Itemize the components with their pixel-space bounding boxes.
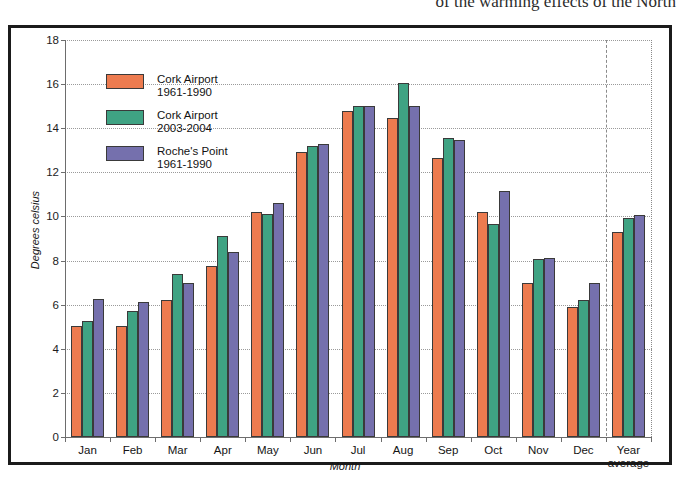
bar bbox=[364, 106, 375, 437]
legend-item-label: Cork Airport2003-2004 bbox=[157, 109, 218, 134]
y-axis-tick-label: 6 bbox=[15, 299, 59, 311]
bar bbox=[217, 236, 228, 437]
page-body-text-fragment-label: of the warming effects of the North bbox=[436, 0, 676, 11]
bar bbox=[443, 138, 454, 437]
legend-item-label-line1: Roche's Point bbox=[157, 145, 228, 158]
x-axis-title: Month bbox=[65, 460, 625, 472]
bar bbox=[578, 300, 589, 437]
x-axis-tick-mark bbox=[245, 437, 246, 442]
bar bbox=[544, 258, 555, 437]
bar bbox=[161, 300, 172, 437]
x-axis-tick-mark bbox=[335, 437, 336, 442]
bar-group bbox=[522, 40, 555, 437]
bar-group bbox=[477, 40, 510, 437]
bar bbox=[353, 106, 364, 437]
legend-item-label-line2: 1961-1990 bbox=[157, 86, 218, 99]
legend-color-swatch bbox=[106, 110, 144, 125]
y-axis-tick-label: 2 bbox=[15, 387, 59, 399]
bar bbox=[387, 118, 398, 437]
y-axis-tick-label: 18 bbox=[15, 34, 59, 46]
bar bbox=[183, 283, 194, 437]
bar bbox=[172, 274, 183, 437]
legend-item-label: Cork Airport1961-1990 bbox=[157, 73, 218, 98]
bar bbox=[533, 259, 544, 437]
bar bbox=[262, 214, 273, 437]
bar bbox=[488, 224, 499, 437]
y-axis-tick-label: 4 bbox=[15, 343, 59, 355]
bar bbox=[71, 326, 82, 437]
bar-group bbox=[612, 40, 645, 437]
bar bbox=[206, 266, 217, 437]
bar-chart: 024681012141618 Degrees celsius JanFebMa… bbox=[11, 28, 669, 462]
x-axis-tick-mark bbox=[290, 437, 291, 442]
y-axis-tick-label: 14 bbox=[15, 122, 59, 134]
legend-item: Roche's Point1961-1990 bbox=[106, 145, 296, 170]
x-axis-tick-mark bbox=[110, 437, 111, 442]
bar bbox=[138, 302, 149, 437]
bar-group bbox=[567, 40, 600, 437]
bar bbox=[454, 140, 465, 437]
bar-group bbox=[432, 40, 465, 437]
x-axis-tick-mark bbox=[381, 437, 382, 442]
bar bbox=[127, 311, 138, 437]
bar bbox=[398, 83, 409, 437]
legend-color-swatch bbox=[106, 146, 144, 161]
bar bbox=[251, 212, 262, 437]
x-axis-tick-mark bbox=[516, 437, 517, 442]
bar bbox=[318, 144, 329, 437]
y-axis-tick-label: 0 bbox=[15, 431, 59, 443]
legend-item-label-line2: 1961-1990 bbox=[157, 158, 228, 171]
x-axis-tick-mark bbox=[200, 437, 201, 442]
bar bbox=[273, 203, 284, 437]
bar bbox=[307, 146, 318, 437]
bar bbox=[296, 152, 307, 437]
bar bbox=[409, 106, 420, 437]
bar bbox=[634, 215, 645, 437]
bar bbox=[342, 111, 353, 437]
bar-group bbox=[387, 40, 420, 437]
page-body-text-fragment: of the warming effects of the North bbox=[0, 0, 684, 14]
legend-color-swatch bbox=[106, 74, 144, 89]
bar-group bbox=[296, 40, 329, 437]
bar bbox=[82, 321, 93, 437]
bar bbox=[93, 299, 104, 437]
legend-item: Cork Airport2003-2004 bbox=[106, 109, 296, 134]
bar-group bbox=[71, 40, 104, 437]
bar bbox=[522, 283, 533, 437]
y-axis-title: Degrees celsius bbox=[29, 170, 41, 290]
y-axis-tick-label: 16 bbox=[15, 78, 59, 90]
x-axis-line bbox=[65, 437, 652, 438]
figure-frame: 024681012141618 Degrees celsius JanFebMa… bbox=[8, 25, 672, 465]
bar bbox=[116, 326, 127, 437]
legend-item: Cork Airport1961-1990 bbox=[106, 73, 296, 98]
bar-group bbox=[342, 40, 375, 437]
bar bbox=[432, 158, 443, 437]
legend-item-label-line1: Cork Airport bbox=[157, 109, 218, 122]
bar bbox=[228, 252, 239, 437]
bar bbox=[589, 283, 600, 437]
x-axis-tick-mark bbox=[155, 437, 156, 442]
x-axis-tick-mark bbox=[426, 437, 427, 442]
legend-item-label-line1: Cork Airport bbox=[157, 73, 218, 86]
x-axis-tick-mark bbox=[651, 437, 652, 442]
bar bbox=[612, 232, 623, 437]
x-axis-tick-mark bbox=[65, 437, 66, 442]
bar bbox=[567, 307, 578, 437]
bar bbox=[477, 212, 488, 437]
x-axis-tick-mark bbox=[561, 437, 562, 442]
legend-item-label-line2: 2003-2004 bbox=[157, 122, 218, 135]
x-axis-tick-mark bbox=[606, 437, 607, 442]
plot-right-edge bbox=[651, 40, 652, 437]
x-axis-tick-mark bbox=[471, 437, 472, 442]
legend-item-label: Roche's Point1961-1990 bbox=[157, 145, 228, 170]
bar bbox=[499, 191, 510, 437]
bar bbox=[623, 218, 634, 437]
legend: Cork Airport1961-1990Cork Airport2003-20… bbox=[106, 73, 296, 181]
